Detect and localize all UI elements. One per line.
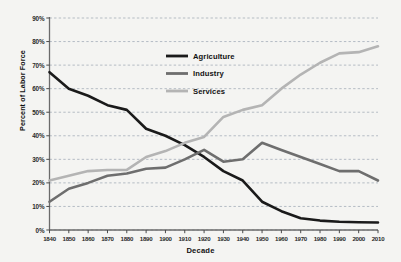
x-tick-label: 2010: [366, 235, 390, 242]
gridlines-group: [50, 18, 379, 230]
x-axis-title: Decade: [0, 246, 401, 255]
y-tick-label: 40%: [19, 132, 45, 139]
y-tick-label: 90%: [19, 15, 45, 22]
y-tick-label: 20%: [19, 179, 45, 186]
y-tick-label: 60%: [19, 85, 45, 92]
legend-swatches-group: [166, 56, 188, 91]
legend-label-services: Services: [193, 87, 225, 96]
y-tick-label: 10%: [19, 203, 45, 210]
tick-marks-group: [46, 18, 378, 233]
y-tick-label: 80%: [19, 38, 45, 45]
y-tick-label: 50%: [19, 109, 45, 116]
series-line-industry: [50, 143, 379, 202]
legend-label-industry: Industry: [193, 69, 224, 78]
series-line-services: [50, 46, 379, 180]
legend-label-agriculture: Agriculture: [193, 52, 235, 61]
y-tick-label: 0%: [19, 227, 45, 234]
axis-lines-group: [50, 17, 379, 230]
chart-container: Percent of Labor Force Decade 0%10%20%30…: [0, 0, 401, 262]
y-tick-label: 70%: [19, 62, 45, 69]
y-tick-label: 30%: [19, 156, 45, 163]
plot-area: [0, 0, 401, 262]
